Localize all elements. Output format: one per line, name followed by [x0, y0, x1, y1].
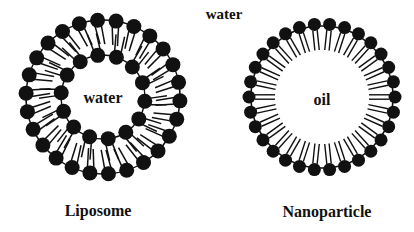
lipid-head: [29, 50, 44, 65]
surfactant-tail: [361, 123, 377, 135]
lipid-head: [20, 104, 35, 119]
lipid-tail: [32, 106, 51, 114]
lipid-tail: [129, 32, 135, 51]
surfactant-head: [375, 133, 388, 146]
surfactant-tail: [279, 46, 292, 61]
lipid-head: [90, 13, 105, 28]
surfactant-tail: [366, 72, 384, 80]
lipid-tail: [156, 86, 175, 92]
surfactant-head: [338, 160, 351, 173]
surfactant-tail: [290, 38, 300, 55]
surfactant-head: [364, 145, 377, 158]
surfactant-head: [375, 48, 388, 61]
lipid-head: [66, 120, 81, 135]
surfactant-tail: [290, 139, 300, 156]
lipid-head: [40, 36, 55, 51]
lipid-head: [118, 125, 133, 140]
lipid-head: [26, 122, 41, 137]
lipid-tail: [71, 143, 77, 162]
lipid-tail: [133, 46, 142, 62]
surfactant-tail: [267, 123, 283, 135]
surfactant-tail: [267, 59, 283, 71]
liposome-caption: Liposome: [65, 203, 132, 219]
surfactant-head: [387, 106, 400, 119]
lipid-tail: [88, 35, 95, 52]
surfactant-tail: [364, 68, 382, 76]
surfactant-tail: [368, 109, 388, 113]
lipid-head: [165, 57, 180, 72]
surfactant-tail: [368, 81, 388, 85]
lipid-tail: [87, 148, 88, 168]
surfactant-head: [387, 75, 400, 88]
surfactant-head: [249, 61, 262, 74]
lipid-tail: [31, 102, 50, 108]
surfactant-tail: [262, 118, 280, 126]
lipid-head: [156, 41, 171, 56]
surfactant-head: [293, 160, 306, 173]
lipid-head: [142, 28, 157, 43]
surfactant-tail: [344, 38, 354, 55]
lipid-tail: [154, 113, 174, 115]
surfactant-tail: [364, 118, 382, 126]
lipid-head: [54, 85, 69, 100]
surfactant-head: [323, 163, 336, 176]
surfactant-head: [256, 133, 269, 146]
surfactant-head: [338, 21, 351, 34]
lipid-head: [82, 129, 97, 144]
lipid-head: [119, 163, 134, 178]
surfactant-head: [243, 91, 256, 104]
lipid-tail: [112, 142, 119, 159]
surfactant-tail: [256, 85, 276, 89]
surfactant-head: [279, 27, 292, 40]
lipid-tail: [140, 135, 157, 146]
outer-medium-label: water: [206, 7, 243, 22]
lipid-tail: [101, 150, 105, 170]
surfactant-head: [267, 36, 280, 49]
lipid-tail: [64, 132, 73, 148]
surfactant-tail: [368, 85, 388, 89]
lipid-head: [109, 50, 124, 65]
lipid-tail: [152, 117, 172, 121]
lipid-tail: [117, 26, 118, 46]
surfactant-tail: [366, 114, 384, 122]
lipid-head: [72, 16, 87, 31]
surfactant-tail: [317, 144, 319, 164]
lipid-head: [151, 143, 166, 158]
surfactant-head: [382, 120, 395, 133]
surfactant-head: [352, 27, 365, 40]
lipid-tail: [48, 129, 61, 145]
lipid-head: [82, 165, 97, 180]
lipid-head: [55, 24, 70, 39]
lipid-tail: [44, 126, 58, 140]
liposome-core-label: water: [83, 90, 122, 106]
lipid-head: [169, 112, 184, 127]
lipid-head: [101, 166, 116, 181]
lipid-head: [60, 68, 75, 83]
lipid-tail: [53, 44, 69, 57]
lipid-head: [131, 111, 146, 126]
surfactant-tail: [313, 144, 315, 164]
lipid-head: [65, 160, 80, 175]
lipid-tail: [148, 54, 162, 68]
surfactant-tail: [287, 137, 297, 154]
surfactant-head: [308, 163, 321, 176]
surfactant-tail: [352, 133, 365, 148]
lipid-diagram: [0, 0, 414, 232]
surfactant-head: [267, 145, 280, 158]
surfactant-tail: [256, 105, 276, 109]
lipid-head: [172, 93, 187, 108]
lipid-tail: [145, 49, 158, 65]
surfactant-tail: [279, 133, 292, 148]
lipid-head: [22, 67, 37, 82]
surfactant-tail: [260, 114, 278, 122]
surfactant-tail: [329, 31, 331, 51]
lipid-tail: [38, 119, 54, 131]
surfactant-head: [352, 154, 365, 167]
lipid-head: [135, 75, 150, 90]
surfactant-tail: [317, 30, 319, 50]
lipid-head: [35, 138, 50, 153]
lipid-tail: [49, 48, 66, 59]
lipid-head: [56, 104, 71, 119]
surfactant-head: [323, 18, 336, 31]
surfactant-head: [244, 75, 257, 88]
